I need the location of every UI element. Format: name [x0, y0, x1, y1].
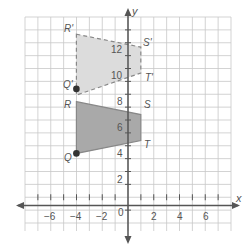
coordinate-plane: x y 0 −6 −4 −2 2 4 6 2 4 6 8 10 12 R' S'… — [0, 0, 252, 251]
y-axis-arrow-up-icon — [125, 8, 132, 16]
y-tick-label: 10 — [111, 70, 123, 81]
x-tick-label: −2 — [96, 211, 108, 222]
vertex-label-s-prime: S' — [143, 37, 153, 48]
vertex-label-r: R — [64, 99, 71, 110]
y-tick-label: 8 — [117, 96, 123, 107]
x-tick-label: 2 — [151, 211, 157, 222]
vertex-label-q: Q — [64, 152, 72, 163]
y-tick-label: 4 — [117, 148, 123, 159]
vertex-label-t-prime: T' — [145, 72, 154, 83]
vertex-label-r-prime: R' — [64, 23, 74, 34]
x-axis-arrow-left-icon — [16, 202, 24, 209]
shape-qrst-prime — [76, 34, 140, 95]
point-q-prime — [73, 86, 80, 93]
vertex-label-s: S — [144, 99, 151, 110]
origin-label: 0 — [118, 207, 124, 218]
x-tick-label: −6 — [44, 211, 56, 222]
y-tick-label: 2 — [117, 174, 123, 185]
point-q — [73, 150, 80, 157]
x-tick-label: 6 — [203, 211, 209, 222]
x-tick-label: −4 — [70, 211, 82, 222]
y-tick-label: 12 — [111, 44, 123, 55]
vertex-label-q-prime: Q' — [63, 79, 74, 90]
vertex-label-t: T — [144, 139, 151, 150]
y-axis-arrow-down-icon — [125, 236, 132, 244]
y-axis-label: y — [131, 5, 139, 17]
x-tick-label: 4 — [177, 211, 183, 222]
x-axis-label: x — [235, 192, 242, 204]
y-tick-label: 6 — [117, 122, 123, 133]
